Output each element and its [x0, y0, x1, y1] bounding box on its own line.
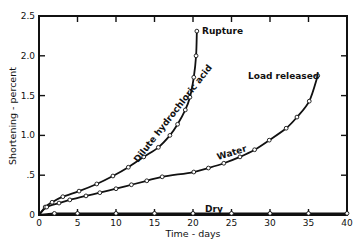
data-point-dilute-hydrochloric-acid: [111, 174, 115, 178]
data-point-water: [207, 166, 211, 170]
data-point-dilute-hydrochloric-acid: [77, 189, 81, 193]
label-water: Water: [216, 143, 249, 162]
data-point-dry: [230, 212, 234, 216]
y-tick-label: 1.0: [21, 130, 36, 140]
y-tick-label: 1.5: [21, 91, 35, 101]
plot-frame: [39, 16, 347, 215]
label-acid: Dilute hydrochloric acid: [132, 63, 214, 164]
series-line-water: [39, 76, 318, 215]
data-point-water: [84, 194, 88, 198]
x-tick-label: 40: [341, 218, 353, 228]
ticks: 05101520253035400.51.01.52.02.5: [21, 11, 353, 228]
data-point-dilute-hydrochloric-acid: [176, 122, 180, 126]
axes: [39, 16, 347, 215]
chart: 05101520253035400.51.01.52.02.5 Time - d…: [0, 0, 363, 249]
annotation-rupture: Rupture: [202, 26, 243, 36]
data-point-dry: [114, 212, 118, 216]
data-point-water: [130, 183, 134, 187]
data-point-dilute-hydrochloric-acid: [61, 195, 65, 199]
data-point-water: [222, 161, 226, 165]
data-point-dry: [268, 212, 272, 216]
y-axis-title: Shortening - percent: [7, 67, 18, 165]
data-point-water: [57, 201, 61, 205]
y-tick-label: 2.5: [21, 11, 35, 21]
x-tick-label: 10: [110, 218, 122, 228]
x-tick-label: 30: [264, 218, 276, 228]
data-point-water: [253, 148, 257, 152]
data-point-dry: [191, 212, 195, 216]
data-point-water: [45, 205, 49, 209]
data-point-dilute-hydrochloric-acid: [50, 200, 54, 204]
data-point-dilute-hydrochloric-acid: [95, 182, 99, 186]
curves: [39, 31, 347, 215]
data-point-water: [267, 138, 271, 142]
data-point-water: [160, 175, 164, 179]
data-point-water: [307, 99, 311, 103]
y-tick-label: 0: [29, 210, 35, 220]
data-point-dilute-hydrochloric-acid: [168, 134, 172, 138]
x-tick-label: 35: [303, 218, 314, 228]
x-tick-label: 5: [75, 218, 81, 228]
data-point-dry: [345, 212, 349, 216]
data-point-water: [68, 198, 72, 202]
y-tick-label: 2.0: [21, 51, 36, 61]
data-point-dry: [307, 212, 311, 216]
data-point-dilute-hydrochloric-acid: [183, 108, 187, 112]
data-point-dry: [53, 212, 57, 216]
data-point-dilute-hydrochloric-acid: [156, 145, 160, 149]
data-point-water: [284, 126, 288, 130]
x-tick-label: 20: [187, 218, 199, 228]
data-point-dry: [153, 212, 157, 216]
data-point-water: [98, 191, 102, 195]
data-point-dry: [76, 212, 80, 216]
data-point-water: [114, 187, 118, 191]
x-tick-label: 15: [149, 218, 160, 228]
data-point-dilute-hydrochloric-acid: [126, 165, 130, 169]
data-point-water: [295, 115, 299, 119]
data-point-dilute-hydrochloric-acid: [194, 54, 198, 58]
x-tick-label: 25: [226, 218, 237, 228]
label-dry: Dry: [205, 204, 223, 214]
annotation-load-released: Load released: [248, 71, 319, 81]
data-point-water: [192, 170, 196, 174]
data-point-dilute-hydrochloric-acid: [195, 29, 199, 33]
y-tick-label: .5: [26, 170, 35, 180]
data-point-water: [145, 179, 149, 183]
x-axis-title: Time - days: [164, 228, 220, 239]
x-tick-label: 0: [36, 218, 42, 228]
